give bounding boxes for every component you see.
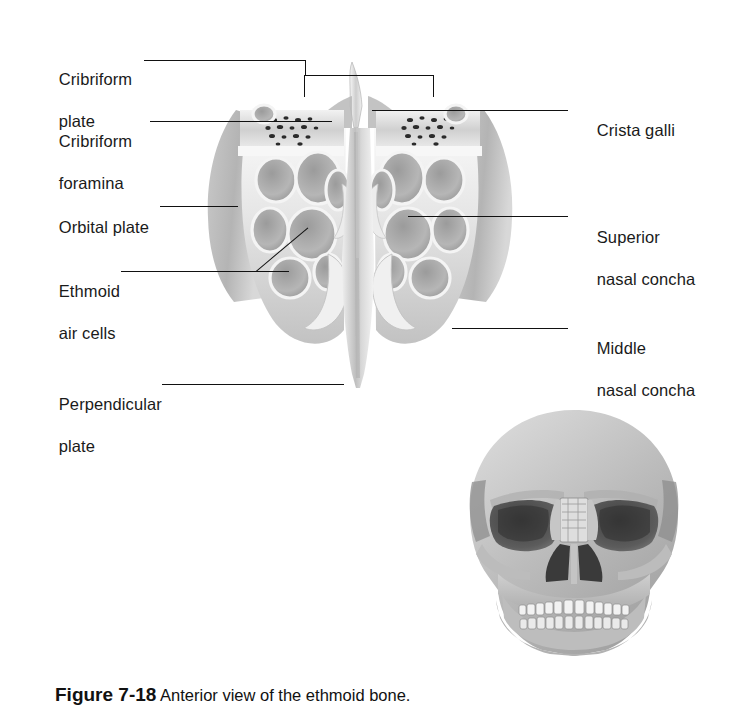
leader-cribriform-foramina	[150, 121, 332, 122]
bracket-cribriform-plate-span	[304, 75, 434, 76]
leader-perpendicular-plate	[162, 384, 344, 385]
leader-ethmoid-air-cells	[121, 271, 289, 272]
leader-superior-nasal-concha	[408, 216, 568, 217]
ethmoid-bone-illustration	[178, 58, 542, 418]
figure-caption-number: Figure 7-18	[55, 684, 156, 705]
label-perpendicular-plate: Perpendicular plate	[40, 373, 162, 478]
label-perpendicular-plate-line2: plate	[59, 437, 95, 455]
label-cribriform-foramina-line2: foramina	[59, 174, 124, 192]
label-middle-nasal-concha: Middle nasal concha	[578, 317, 695, 422]
ethmoid-region-in-skull	[560, 498, 588, 542]
label-ethmoid-air-cells-line1: Ethmoid	[59, 282, 120, 300]
label-ethmoid-air-cells-line2: air cells	[59, 324, 116, 342]
label-crista-galli: Crista galli	[578, 99, 675, 162]
label-cribriform-foramina-line1: Cribriform	[59, 132, 132, 150]
label-superior-nasal-concha: Superior nasal concha	[578, 206, 695, 311]
label-superior-nasal-concha-line1: Superior	[597, 228, 660, 246]
label-middle-nasal-concha-line2: nasal concha	[597, 381, 695, 399]
label-cribriform-plate-line1: Cribriform	[59, 70, 132, 88]
label-ethmoid-air-cells: Ethmoid air cells	[40, 260, 120, 365]
bracket-tick-right	[433, 75, 434, 97]
leader-crista-galli	[372, 110, 568, 111]
label-perpendicular-plate-line1: Perpendicular	[59, 395, 162, 413]
leader-cribriform-plate	[144, 60, 306, 61]
leader-middle-nasal-concha	[452, 328, 568, 329]
leader-orbital-plate	[160, 206, 238, 207]
leader-cribriform-plate-drop	[305, 60, 306, 76]
figure-caption: Figure 7-18 Anterior view of the ethmoid…	[55, 684, 655, 706]
label-crista-galli-line1: Crista galli	[597, 121, 675, 139]
label-orbital-plate-line1: Orbital plate	[59, 218, 149, 236]
figure-caption-text: Anterior view of the ethmoid bone.	[156, 686, 410, 704]
label-superior-nasal-concha-line2: nasal concha	[597, 270, 695, 288]
label-middle-nasal-concha-line1: Middle	[597, 339, 646, 357]
skull-anterior-inset	[438, 404, 710, 660]
bracket-tick-left	[304, 75, 305, 97]
label-orbital-plate: Orbital plate	[40, 196, 149, 259]
